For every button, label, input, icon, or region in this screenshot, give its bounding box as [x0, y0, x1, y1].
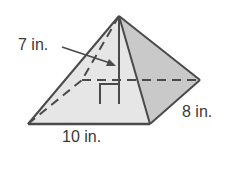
pyramid-diagram	[0, 0, 235, 172]
base-length-label: 10 in.	[62, 128, 101, 146]
base-width-label: 8 in.	[182, 103, 212, 121]
pyramid-figure: 7 in. 10 in. 8 in.	[0, 0, 235, 172]
height-label: 7 in.	[18, 36, 48, 54]
